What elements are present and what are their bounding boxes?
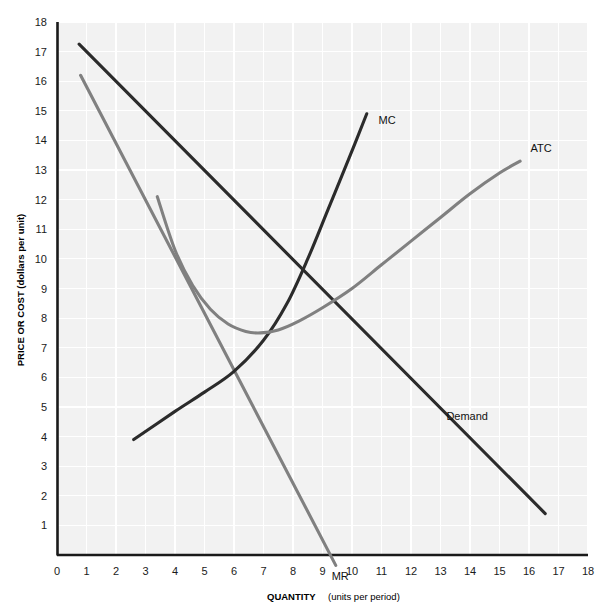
y-tick-label: 6 bbox=[41, 371, 47, 383]
y-tick-label: 18 bbox=[35, 16, 47, 28]
y-tick-label: 7 bbox=[41, 342, 47, 354]
x-tick-label: 6 bbox=[231, 565, 237, 577]
y-tick-label: 4 bbox=[41, 431, 47, 443]
curve-label-atc: ATC bbox=[530, 142, 551, 154]
x-tick-label: 17 bbox=[552, 565, 564, 577]
x-tick-label: 1 bbox=[83, 565, 89, 577]
y-tick-label: 3 bbox=[41, 460, 47, 472]
chart-svg: 123456789101112131415161718 012345678910… bbox=[0, 0, 613, 614]
x-tick-label: 18 bbox=[582, 565, 594, 577]
x-tick-label: 0 bbox=[54, 565, 60, 577]
x-tick-label: 11 bbox=[376, 565, 387, 577]
x-tick-label: 12 bbox=[405, 565, 417, 577]
x-tick-label: 4 bbox=[172, 565, 178, 577]
x-tick-label: 13 bbox=[434, 565, 446, 577]
y-tick-label: 2 bbox=[41, 490, 47, 502]
x-axis-title-units: (units per period) bbox=[328, 591, 400, 602]
y-tick-label: 1 bbox=[41, 519, 47, 531]
x-tick-label: 15 bbox=[493, 565, 505, 577]
x-tick-label: 7 bbox=[260, 565, 266, 577]
y-tick-label: 12 bbox=[35, 194, 47, 206]
curve-label-demand: Demand bbox=[446, 410, 488, 422]
x-tick-label: 9 bbox=[319, 565, 325, 577]
x-tick-label: 5 bbox=[201, 565, 207, 577]
y-tick-label: 5 bbox=[41, 401, 47, 413]
x-tick-label: 14 bbox=[464, 565, 476, 577]
y-tick-label: 14 bbox=[35, 134, 47, 146]
y-tick-label: 15 bbox=[35, 105, 47, 117]
y-tick-label: 9 bbox=[41, 283, 47, 295]
y-tick-label: 10 bbox=[35, 253, 47, 265]
y-tick-label: 8 bbox=[41, 312, 47, 324]
y-tick-label: 16 bbox=[35, 75, 47, 87]
x-tick-label: 3 bbox=[142, 565, 148, 577]
curve-label-mc: MC bbox=[379, 114, 396, 126]
x-tick-label: 16 bbox=[523, 565, 535, 577]
curve-label-mr: MR bbox=[332, 570, 349, 582]
y-tick-label: 11 bbox=[36, 223, 47, 235]
y-axis-title: PRICE OR COST (dollars per unit) bbox=[15, 214, 26, 367]
x-tick-label: 8 bbox=[290, 565, 296, 577]
x-axis-title: QUANTITY bbox=[267, 591, 316, 602]
y-tick-label: 17 bbox=[35, 46, 47, 58]
y-tick-label: 13 bbox=[35, 164, 47, 176]
x-tick-label: 2 bbox=[113, 565, 119, 577]
economics-chart: 123456789101112131415161718 012345678910… bbox=[0, 0, 613, 614]
